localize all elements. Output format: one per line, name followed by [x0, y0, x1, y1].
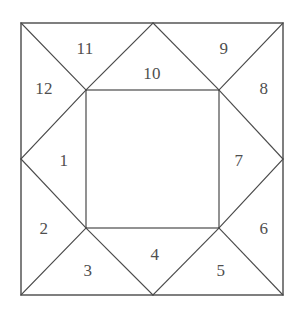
region-label-1: 1 — [60, 152, 69, 169]
region-label-7: 7 — [235, 152, 244, 169]
diagonal-bottom-right-corner — [219, 228, 283, 295]
inner-square — [86, 90, 219, 228]
diagonal-top-right-corner — [219, 23, 283, 90]
region-label-5: 5 — [217, 262, 226, 279]
spoke-right-to-inner-top-right — [219, 90, 283, 159]
region-label-6: 6 — [260, 220, 269, 237]
spoke-top-to-inner-top-right — [153, 23, 219, 90]
spoke-right-to-inner-bottom-right — [219, 159, 283, 228]
figure-canvas — [0, 0, 301, 311]
region-label-2: 2 — [40, 220, 49, 237]
region-label-12: 12 — [35, 80, 53, 97]
spoke-bottom-to-inner-bottom-left — [86, 228, 153, 295]
spoke-bottom-to-inner-bottom-right — [153, 228, 219, 295]
spoke-left-to-inner-bottom-left — [21, 159, 86, 228]
diagonal-bottom-left-corner — [21, 228, 86, 295]
region-label-10: 10 — [143, 65, 161, 82]
region-label-11: 11 — [77, 40, 94, 57]
spoke-left-to-inner-top-left — [21, 90, 86, 159]
region-label-3: 3 — [84, 262, 93, 279]
region-label-9: 9 — [220, 40, 229, 57]
geometric-figure: 1 2 3 4 5 6 7 8 9 10 11 12 — [0, 0, 301, 311]
region-label-8: 8 — [260, 80, 269, 97]
region-label-4: 4 — [151, 246, 160, 263]
